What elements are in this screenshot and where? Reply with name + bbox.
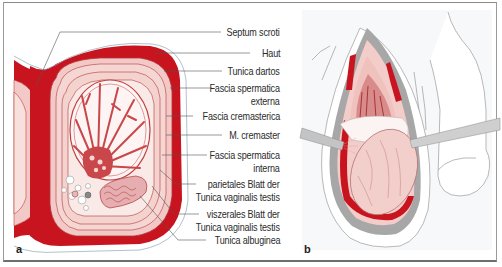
label-m-cremaster: M. cremaster	[229, 129, 280, 141]
label-fascia-spermatica-interna-1: Fascia spermatica	[210, 149, 280, 161]
label-fascia-spermatica-externa-2: externa	[251, 95, 280, 107]
label-tunica-albuginea: Tunica albuginea	[214, 234, 280, 246]
label-tunica-dartos: Tunica dartos	[228, 65, 280, 77]
label-viszerales-blatt-1: viszerales Blatt der	[207, 208, 280, 220]
label-fascia-spermatica-externa-1: Fascia spermatica	[210, 82, 280, 94]
label-septum-scroti: Septum scroti	[227, 26, 280, 38]
panel-letter-b: b	[304, 243, 311, 255]
label-fascia-cremasterica: Fascia cremasterica	[202, 110, 280, 122]
panel-b-surgical-view	[300, 10, 500, 250]
label-parietales-blatt-2: Tunica vaginalis testis	[196, 191, 280, 203]
label-viszerales-blatt-2: Tunica vaginalis testis	[196, 221, 280, 233]
panel-letter-a: a	[16, 243, 22, 255]
label-haut: Haut	[262, 47, 280, 59]
label-fascia-spermatica-interna-2: interna	[254, 162, 280, 174]
label-parietales-blatt-1: parietales Blatt der	[208, 178, 280, 190]
